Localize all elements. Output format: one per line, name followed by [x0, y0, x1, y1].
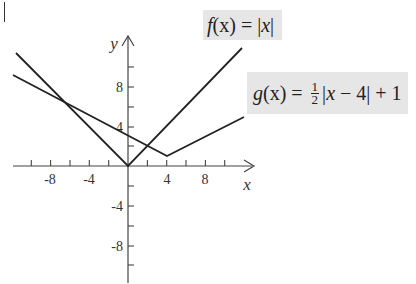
g-equals: =: [286, 82, 307, 105]
x-tick-label: -8: [44, 172, 56, 187]
abs-bar-close: |: [270, 14, 274, 37]
x-axis-label: x: [242, 175, 251, 194]
y-tick-label: -4: [111, 199, 123, 214]
g-var: x: [326, 82, 335, 105]
one-half-fraction: 12: [311, 81, 320, 106]
g-arg: (x): [263, 82, 286, 105]
graph-canvas: -8 -4 4 8 8 4 -4 -8 x y: [0, 0, 416, 284]
x-tick-label: -4: [83, 172, 95, 187]
g-body-rest: − 4| + 1: [335, 82, 402, 105]
x-tick-label: 8: [202, 172, 209, 187]
f-var: x: [261, 14, 270, 37]
f-equals: =: [236, 14, 257, 37]
g-function-label: g(x) = 12|x − 4| + 1: [247, 72, 408, 114]
x-tick-label: 4: [164, 172, 171, 187]
absolute-value-graph-figure: -8 -4 4 8 8 4 -4 -8 x y f(x) = |x| g(x) …: [0, 0, 416, 284]
x-axis: [13, 160, 254, 172]
g-name: g: [253, 82, 263, 105]
f-function-label: f(x) = |x|: [203, 10, 282, 40]
y-tick-label: -8: [111, 239, 123, 254]
y-axis-label: y: [108, 34, 118, 53]
y-tick-label: 8: [116, 80, 123, 95]
f-arg: (x): [213, 14, 236, 37]
fraction-denominator: 2: [312, 94, 319, 106]
